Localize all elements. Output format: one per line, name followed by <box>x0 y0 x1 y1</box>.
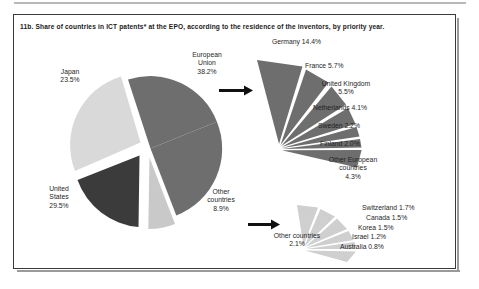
label-netherlands: Netherlands 4.1% <box>313 104 397 112</box>
main-slice-united-states <box>78 156 140 228</box>
breakout-fan-european-union <box>257 60 362 168</box>
arrow-european-union-breakout <box>219 86 253 96</box>
label-korea: Korea 1.5% <box>358 224 434 232</box>
label-other-countries-sub: Other countries 2.1% <box>258 232 336 249</box>
arrow-other-countries-breakout <box>248 220 280 230</box>
label-france: France 5.7% <box>305 62 375 70</box>
label-switzerland: Switzerland 1.7% <box>362 204 442 212</box>
label-other-european-countries: Other European countries 4.3% <box>312 156 394 181</box>
label-european-union: European Union 38.2% <box>181 51 233 76</box>
label-sweden: Sweden 2.2% <box>318 122 390 130</box>
label-japan: Japan 23.5% <box>46 68 94 85</box>
label-other-countries-main: Other countries 8.9% <box>195 188 247 213</box>
main-slice-japan <box>70 77 140 172</box>
breakout-wedge-other-countries-sub <box>305 251 356 263</box>
label-australia: Australia 0.8% <box>340 243 422 251</box>
label-united-kingdom: United Kingdom 5.5% <box>310 80 382 97</box>
label-israel: Israel 1.2% <box>352 233 428 241</box>
label-canada: Canada 1.5% <box>366 214 442 222</box>
label-united-states: United States 29.5% <box>35 185 83 210</box>
figure-container: 11b. Share of countries in ICT patents* … <box>0 0 479 289</box>
label-germany: Germany 14.4% <box>272 38 352 46</box>
label-finland: Finland 2.0% <box>320 140 390 148</box>
